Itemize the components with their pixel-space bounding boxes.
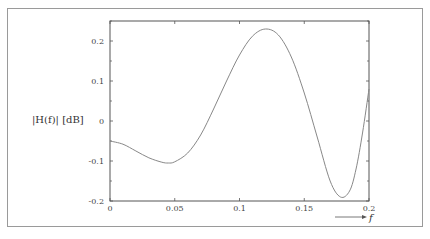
series-line — [110, 29, 369, 197]
y-tick-label: -0.1 — [89, 157, 104, 166]
y-axis-label: |H(f)| [dB] — [32, 114, 84, 125]
y-tick-label: 0.1 — [91, 77, 104, 86]
x-tick-label: 0.15 — [295, 204, 313, 213]
plot-area-border — [110, 21, 369, 201]
x-tick-label: 0 — [107, 204, 112, 213]
x-axis-arrow-icon — [362, 215, 367, 219]
y-tick-label: -0.2 — [89, 197, 104, 206]
x-tick-label: 0.1 — [233, 204, 246, 213]
y-tick-label: 0.2 — [91, 37, 104, 46]
x-tick-label: 0.05 — [166, 204, 184, 213]
y-tick-label: 0 — [99, 117, 104, 126]
x-axis-label: f — [368, 212, 375, 223]
y-axis-label-text: |H(f)| [dB] — [32, 114, 84, 125]
